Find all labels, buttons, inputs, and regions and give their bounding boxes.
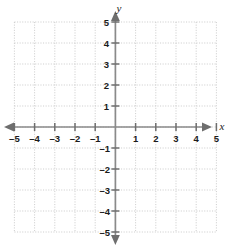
tick-label-y--1: –1 bbox=[99, 143, 110, 154]
arrow-down-icon bbox=[111, 235, 120, 245]
tick-label-x--2: –2 bbox=[70, 133, 81, 144]
tick-label-y--3: –3 bbox=[99, 185, 110, 196]
tick-label-x-1: 1 bbox=[133, 133, 139, 144]
x-axis-label: x bbox=[219, 120, 225, 132]
y-axis-label: y bbox=[116, 2, 122, 14]
tick-label-y--2: –2 bbox=[99, 164, 110, 175]
tick-label-x--4: –4 bbox=[29, 133, 40, 144]
tick-label-y-4: 4 bbox=[104, 38, 110, 49]
y-axis bbox=[111, 11, 120, 245]
x-axis-tick-labels: –5 –4 –3 –2 –1 1 2 3 4 5 bbox=[9, 133, 220, 144]
tick-label-y--4: –4 bbox=[99, 206, 110, 217]
tick-label-y-5: 5 bbox=[104, 17, 110, 28]
tick-label-y--5: –5 bbox=[99, 227, 110, 238]
tick-label-x--5: –5 bbox=[9, 133, 20, 144]
tick-label-x-2: 2 bbox=[153, 133, 158, 144]
arrow-right-icon bbox=[202, 123, 212, 132]
tick-label-y-2: 2 bbox=[104, 80, 109, 91]
tick-label-x-3: 3 bbox=[173, 133, 178, 144]
arrow-left-icon bbox=[4, 123, 14, 132]
coordinate-plane-svg: –5 –4 –3 –2 –1 1 2 3 4 5 5 4 3 2 1 –1 –2… bbox=[0, 0, 239, 250]
coordinate-plane-figure: –5 –4 –3 –2 –1 1 2 3 4 5 5 4 3 2 1 –1 –2… bbox=[0, 0, 239, 250]
tick-label-x-4: 4 bbox=[194, 133, 200, 144]
tick-label-y-3: 3 bbox=[104, 59, 109, 70]
tick-label-x--3: –3 bbox=[50, 133, 61, 144]
tick-label-y-1: 1 bbox=[104, 101, 110, 112]
tick-label-x-5: 5 bbox=[214, 133, 220, 144]
